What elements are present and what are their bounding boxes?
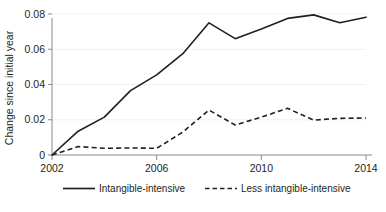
legend-label: Less intangible-intensive bbox=[241, 183, 351, 194]
chart-canvas: 00.020.040.060.08 2002200620102014 Chang… bbox=[0, 0, 386, 212]
x-axis-group: 2002200620102014 bbox=[40, 155, 378, 174]
y-axis-title: Change since initial year bbox=[3, 30, 15, 145]
legend-label: Intangible-intensive bbox=[99, 183, 186, 194]
gridlines-group bbox=[52, 14, 366, 120]
y-axis-tick-label: 0 bbox=[39, 149, 45, 161]
y-axis-tick-label: 0.04 bbox=[25, 78, 46, 90]
x-axis-tick-label: 2010 bbox=[250, 162, 274, 174]
y-axis-tick-label: 0.06 bbox=[25, 43, 46, 55]
x-axis-tick-label: 2002 bbox=[40, 162, 64, 174]
series-line-dashed bbox=[52, 108, 366, 155]
line-chart-figure: 00.020.040.060.08 2002200620102014 Chang… bbox=[0, 0, 386, 212]
x-axis-tick-label: 2014 bbox=[354, 162, 378, 174]
y-axis-tick-label: 0.08 bbox=[25, 8, 46, 20]
y-axis-tick-label: 0.02 bbox=[25, 113, 46, 125]
y-axis-group: 00.020.040.060.08 bbox=[25, 8, 52, 161]
x-axis-tick-label: 2006 bbox=[145, 162, 169, 174]
chart-legend: Intangible-intensiveLess intangible-inte… bbox=[63, 183, 351, 194]
